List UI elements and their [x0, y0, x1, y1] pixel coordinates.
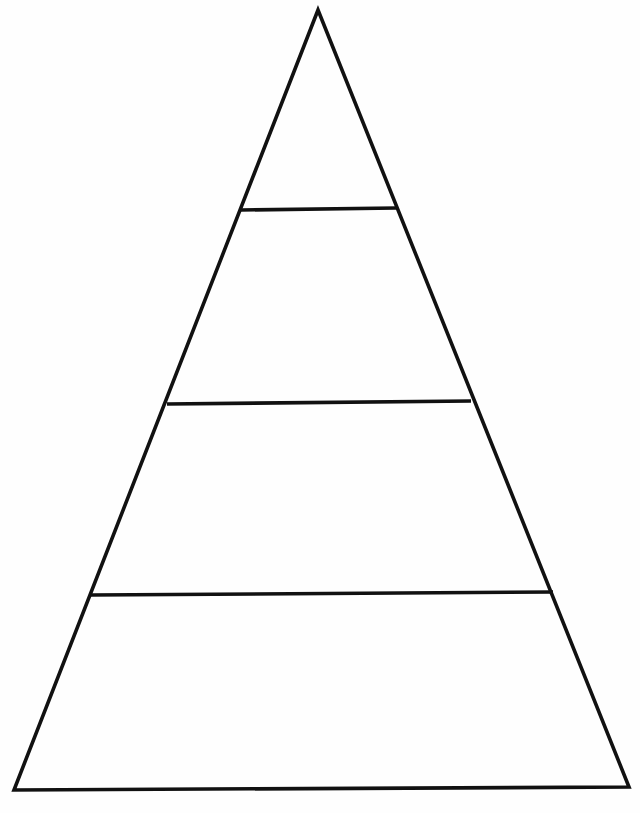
divider-line-1 [241, 208, 396, 210]
tier-4-base-region[interactable] [14, 592, 629, 790]
tier-3-region[interactable] [91, 401, 553, 595]
pyramid-svg [0, 0, 640, 813]
tier-2-region[interactable] [167, 208, 471, 404]
pyramid-diagram-canvas [0, 0, 640, 813]
tier-1-apex-region[interactable] [241, 10, 396, 210]
